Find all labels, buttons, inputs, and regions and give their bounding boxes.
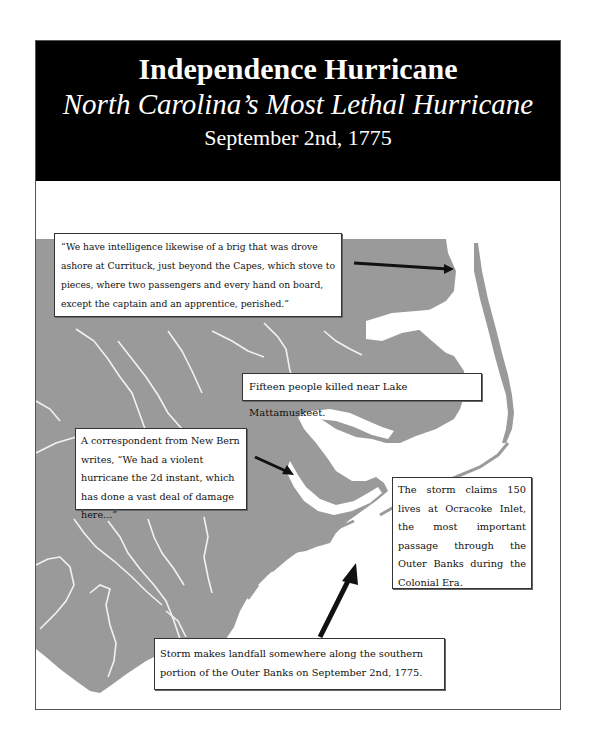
- nc-coast-map: “We have intelligence likewise of a brig…: [36, 181, 561, 710]
- poster-date: September 2nd, 1775: [36, 125, 560, 151]
- callout-landfall: Storm makes landfall somewhere along the…: [154, 638, 445, 690]
- poster-header: Independence Hurricane North Carolina’s …: [36, 41, 560, 181]
- callout-mattamuskeet: Fifteen people killed near Lake Mattamus…: [242, 373, 482, 401]
- callout-ocracoke: The storm claims 150 lives at Ocracoke I…: [392, 477, 532, 589]
- callout-currituck: “We have intelligence likewise of a brig…: [54, 233, 342, 317]
- outer-banks-north: [474, 243, 514, 443]
- poster-title: Independence Hurricane: [36, 52, 560, 86]
- callout-new-bern: A correspondent from New Bern writes, “W…: [75, 428, 247, 510]
- poster-frame: Independence Hurricane North Carolina’s …: [35, 40, 561, 710]
- poster-subtitle: North Carolina’s Most Lethal Hurricane: [36, 88, 560, 120]
